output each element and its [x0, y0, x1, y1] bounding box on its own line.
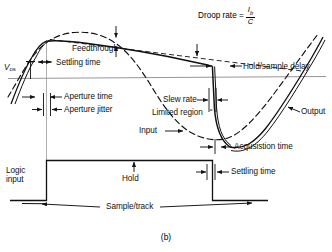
label-limited-region: Limited region — [152, 108, 203, 117]
label-slew-rate: Slew rate — [163, 95, 197, 104]
label-output: Output — [301, 107, 325, 116]
label-feedthrough: Feedthrough — [72, 44, 118, 53]
sample-track-arrow-right — [160, 203, 252, 207]
label-aperture-jitter: Aperture jitter — [64, 105, 112, 114]
output-reacquire-b — [231, 40, 325, 151]
logic-input-line2: input — [6, 175, 24, 184]
baseline-axis — [8, 77, 326, 79]
sample-track-arrow-left — [42, 204, 100, 207]
output-slew-edge-b — [215, 66, 231, 145]
logic-input-line1: Logic — [6, 166, 25, 175]
input-waveform — [8, 32, 318, 140]
label-settling-time-top: Settling time — [56, 58, 100, 67]
output-reacquire-a — [230, 37, 323, 148]
label-aperture-time: Aperture time — [64, 92, 113, 101]
logic-input-waveform — [10, 161, 268, 201]
figure-caption: (b) — [0, 232, 332, 242]
label-sample-track: Sample/track — [104, 202, 155, 211]
droop-rate-fraction: Ib C — [246, 6, 255, 26]
label-hold: Hold — [122, 174, 139, 183]
droop-numerator: Ib — [246, 6, 255, 17]
droop-denominator: C — [246, 17, 255, 26]
output-pointer — [288, 107, 300, 112]
output-rising-edge-a — [11, 41, 47, 104]
label-hold-sample-delay: Hold/sample delay — [243, 62, 310, 71]
droop-rate-text: Droop rate = — [198, 11, 244, 20]
label-input: Input — [139, 126, 157, 135]
sample-hold-timing-diagram — [0, 0, 332, 252]
label-droop-rate: Droop rate = Ib C — [198, 6, 255, 26]
label-logic-input: Logic input — [6, 166, 25, 184]
label-vos: Vos — [4, 63, 16, 74]
label-acquisition-time: Acqusistion time — [234, 142, 293, 151]
label-settling-time-bottom: Settling time — [231, 167, 275, 176]
